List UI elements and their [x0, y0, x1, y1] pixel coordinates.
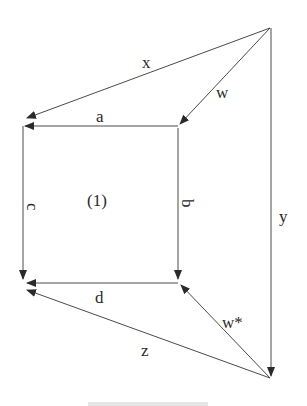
caption-remnant	[88, 402, 208, 406]
label-region: (1)	[87, 191, 107, 210]
arrow-w	[180, 28, 270, 124]
label-w-star: w*	[222, 313, 243, 332]
label-a: a	[96, 107, 104, 126]
commutative-diagram: x w a c (1) b y d w* z	[0, 0, 307, 406]
label-y: y	[279, 207, 288, 226]
label-d: d	[95, 288, 104, 307]
arrow-x	[27, 28, 270, 118]
label-c: c	[23, 203, 42, 211]
arrow-z	[27, 290, 270, 378]
label-x: x	[142, 53, 151, 72]
label-w: w	[216, 83, 229, 102]
label-z: z	[141, 341, 149, 360]
label-b: b	[178, 199, 197, 208]
